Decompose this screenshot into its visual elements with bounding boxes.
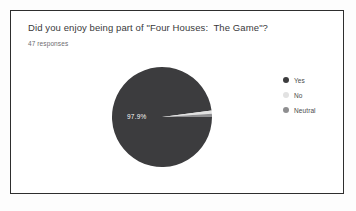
- legend-label-no: No: [294, 92, 303, 99]
- legend-swatch-neutral-icon: [283, 107, 289, 113]
- response-summary-card: Did you enjoy being part of "Four Houses…: [10, 10, 344, 194]
- pie-chart-svg: [110, 65, 214, 169]
- slice-label-yes: 97.9%: [127, 113, 146, 120]
- pie-chart: 97.9%: [110, 65, 214, 169]
- legend-item-neutral[interactable]: Neutral: [283, 104, 343, 116]
- chart-area: 97.9% Yes No Neutral: [11, 57, 345, 193]
- legend-label-yes: Yes: [294, 77, 305, 84]
- chart-legend: Yes No Neutral: [283, 74, 343, 119]
- card-header: Did you enjoy being part of "Four Houses…: [11, 11, 343, 48]
- question-title: Did you enjoy being part of "Four Houses…: [28, 22, 343, 34]
- legend-label-neutral: Neutral: [294, 107, 316, 114]
- legend-swatch-yes-icon: [283, 77, 289, 83]
- legend-item-no[interactable]: No: [283, 89, 343, 101]
- response-count: 47 responses: [28, 39, 343, 48]
- legend-item-yes[interactable]: Yes: [283, 74, 343, 86]
- legend-swatch-no-icon: [283, 92, 289, 98]
